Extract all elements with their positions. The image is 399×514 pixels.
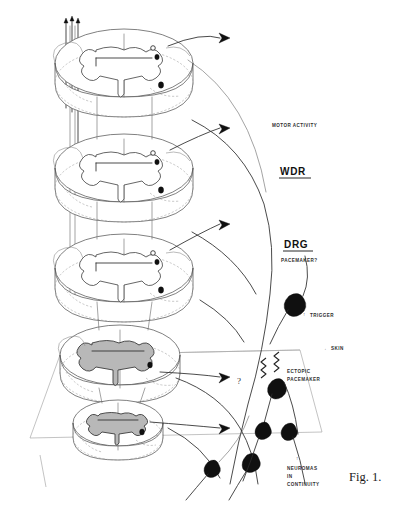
label-pacemaker-query: PACEMAKER? [281,258,318,263]
label-ectopic-line1: ECTOPIC [287,369,311,374]
label-neuromas-line2: IN [287,474,293,479]
neuroma-somata [186,416,305,500]
label-wdr: WDR [280,166,306,177]
trigger-arrow-marker: ↑ [303,312,306,317]
cord-segment-2 [53,134,193,222]
figure-caption: Fig. 1. [349,470,381,484]
reference-tick [40,455,46,487]
label-motor-activity: MOTOR ACTIVITY [272,123,317,128]
label-neuromas-line3: CONTINUITY [287,482,320,487]
cord-segment-4 [58,325,180,403]
skin-arrow-marker: ← [324,346,329,351]
neuromas-arrow-marker: ↑ [296,456,299,461]
cord-segment-5 [73,400,163,460]
label-neuromas-line1: NEUROMAS [287,466,317,471]
question-mark-label: ? [237,376,241,386]
cord-segment-1 [53,29,193,117]
figure-root: ? MOTOR ACTIVITY WDR DRG PACEMAKER? ↑ TR… [0,0,399,514]
label-trigger: TRIGGER [310,313,334,318]
label-drg: DRG [284,239,308,250]
cord-segment-3 [53,234,193,322]
label-skin: SKIN [331,346,344,351]
label-ectopic-line2: PACEMAKER [287,377,321,382]
drg-soma [270,256,308,344]
spinal-cord-diagram: ? MOTOR ACTIVITY WDR DRG PACEMAKER? ↑ TR… [0,0,399,514]
